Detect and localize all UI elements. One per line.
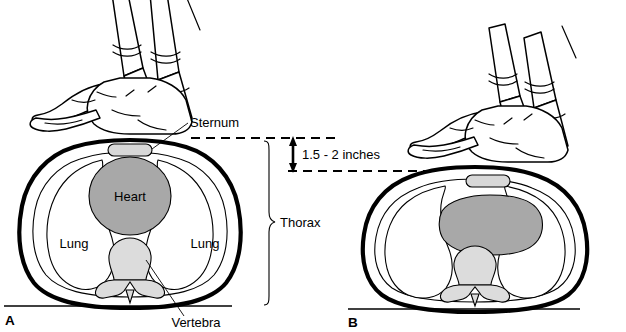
label-heart: Heart (114, 189, 146, 204)
depth-arrow-head-up (289, 136, 297, 146)
figure-canvas: A Sternum Heart Lung Lung Vertebra Thora… (0, 0, 626, 332)
sternum-b (466, 175, 510, 187)
compression-depth-value: 1.5 - 2 inches (302, 147, 381, 162)
panel-a: A Sternum Heart Lung Lung Vertebra Thora… (4, 0, 321, 330)
thorax-brace (264, 141, 275, 305)
cpr-thorax-figure: A Sternum Heart Lung Lung Vertebra Thora… (0, 0, 626, 332)
heart-b (439, 195, 542, 255)
label-thorax: Thorax (280, 215, 321, 230)
rescuer-hands-a (30, 78, 192, 134)
label-vertebra: Vertebra (171, 315, 221, 330)
label-lung-left: Lung (60, 236, 89, 251)
panel-b: B (348, 24, 587, 330)
sternum-a (108, 144, 152, 156)
panel-letter-b: B (348, 315, 358, 330)
compression-depth-measure: 1.5 - 2 inches (191, 136, 432, 173)
label-sternum: Sternum (190, 115, 239, 130)
panel-letter-a: A (5, 313, 15, 328)
rescuer-hands-b (408, 106, 568, 162)
label-lung-right: Lung (191, 236, 220, 251)
